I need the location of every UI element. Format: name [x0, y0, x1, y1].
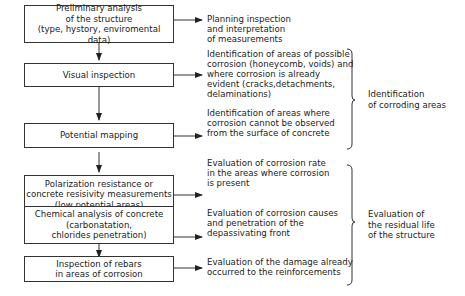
group-line: the residual life — [368, 220, 435, 231]
step-potential-mapping: Potential mapping — [24, 123, 174, 148]
outcome-line: delaminations) — [207, 89, 353, 99]
outcome-line: where corrosion is already — [207, 69, 353, 79]
outcome-line: occurred to the reinforcements — [207, 267, 353, 277]
step-visual-inspection: Visual inspection — [24, 63, 174, 87]
step-chemical-analysis: Chemical analysis of concrete (carbonata… — [24, 206, 174, 244]
outcome-planning: Planning inspection and interpretation o… — [207, 14, 291, 44]
outcome-line: of measurements — [207, 34, 291, 44]
group-line: of the structure — [368, 230, 435, 241]
step-line: concrete resisivity measurements — [26, 189, 172, 200]
outcome-line: Evaluation of the damage already — [207, 257, 353, 267]
outcome-line: depassivating front — [207, 228, 338, 238]
step-line: Inspection of rebars — [56, 259, 142, 270]
outcome-line: Identification of areas of possible — [207, 49, 353, 59]
step-line: in areas of corrosion — [55, 269, 143, 280]
outcome-line: Evaluation of corrosion causes — [207, 208, 338, 218]
step-line: chlorides penetration) — [51, 230, 146, 241]
step-preliminary-analysis: Preliminary analysis of the structure (t… — [24, 5, 174, 43]
step-line: Visual inspection — [63, 70, 136, 81]
step-line: (carbonatation, — [66, 220, 132, 231]
outcome-line: from the surface of concrete — [207, 128, 335, 138]
outcome-line: Identification of areas where — [207, 108, 335, 118]
outcome-rebars: Evaluation of the damage already occurre… — [207, 257, 353, 277]
group-identification-corroding-areas: Identification of corroding areas — [368, 89, 446, 110]
step-line: Potential mapping — [60, 130, 138, 141]
outcome-line: evident (cracks,detachments, — [207, 79, 353, 89]
step-line: (type, hystory, enviromental data) — [25, 24, 173, 45]
outcome-line: Planning inspection — [207, 14, 291, 24]
outcome-line: corrosion (honeycomb, voids) and — [207, 59, 353, 69]
outcome-line: in the areas where corrosion — [207, 168, 329, 178]
group-line: Identification — [368, 89, 446, 100]
step-line: Chemical analysis of concrete — [35, 209, 164, 220]
group-line: Evaluation of — [368, 209, 435, 220]
outcome-visual: Identification of areas of possible corr… — [207, 49, 353, 99]
outcome-polarization: Evaluation of corrosion rate in the area… — [207, 158, 329, 188]
outcome-line: and interpretation — [207, 24, 291, 34]
group-residual-life: Evaluation of the residual life of the s… — [368, 209, 435, 241]
outcome-line: corrosion cannot be observed — [207, 118, 335, 128]
group-line: of corroding areas — [368, 100, 446, 111]
outcome-potential: Identification of areas where corrosion … — [207, 108, 335, 138]
step-line: Preliminary analysis — [56, 3, 142, 14]
outcome-chemical: Evaluation of corrosion causes and penet… — [207, 208, 338, 238]
outcome-line: Evaluation of corrosion rate — [207, 158, 329, 168]
step-inspection-of-rebars: Inspection of rebars in areas of corrosi… — [24, 256, 174, 282]
outcome-line: is present — [207, 178, 329, 188]
step-line: Polarization resistance or — [45, 179, 153, 190]
step-line: of the structure — [66, 14, 133, 25]
outcome-line: and penetration of the — [207, 218, 338, 228]
